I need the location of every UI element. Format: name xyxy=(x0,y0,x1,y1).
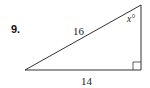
right-triangle xyxy=(25,5,141,70)
right-angle-marker xyxy=(133,62,141,70)
base-label: 14 xyxy=(81,75,93,87)
triangle-diagram: 9. 16 x° 14 xyxy=(0,0,150,88)
angle-label: x° xyxy=(126,14,135,24)
hypotenuse-label: 16 xyxy=(73,25,85,37)
problem-number: 9. xyxy=(11,23,20,35)
